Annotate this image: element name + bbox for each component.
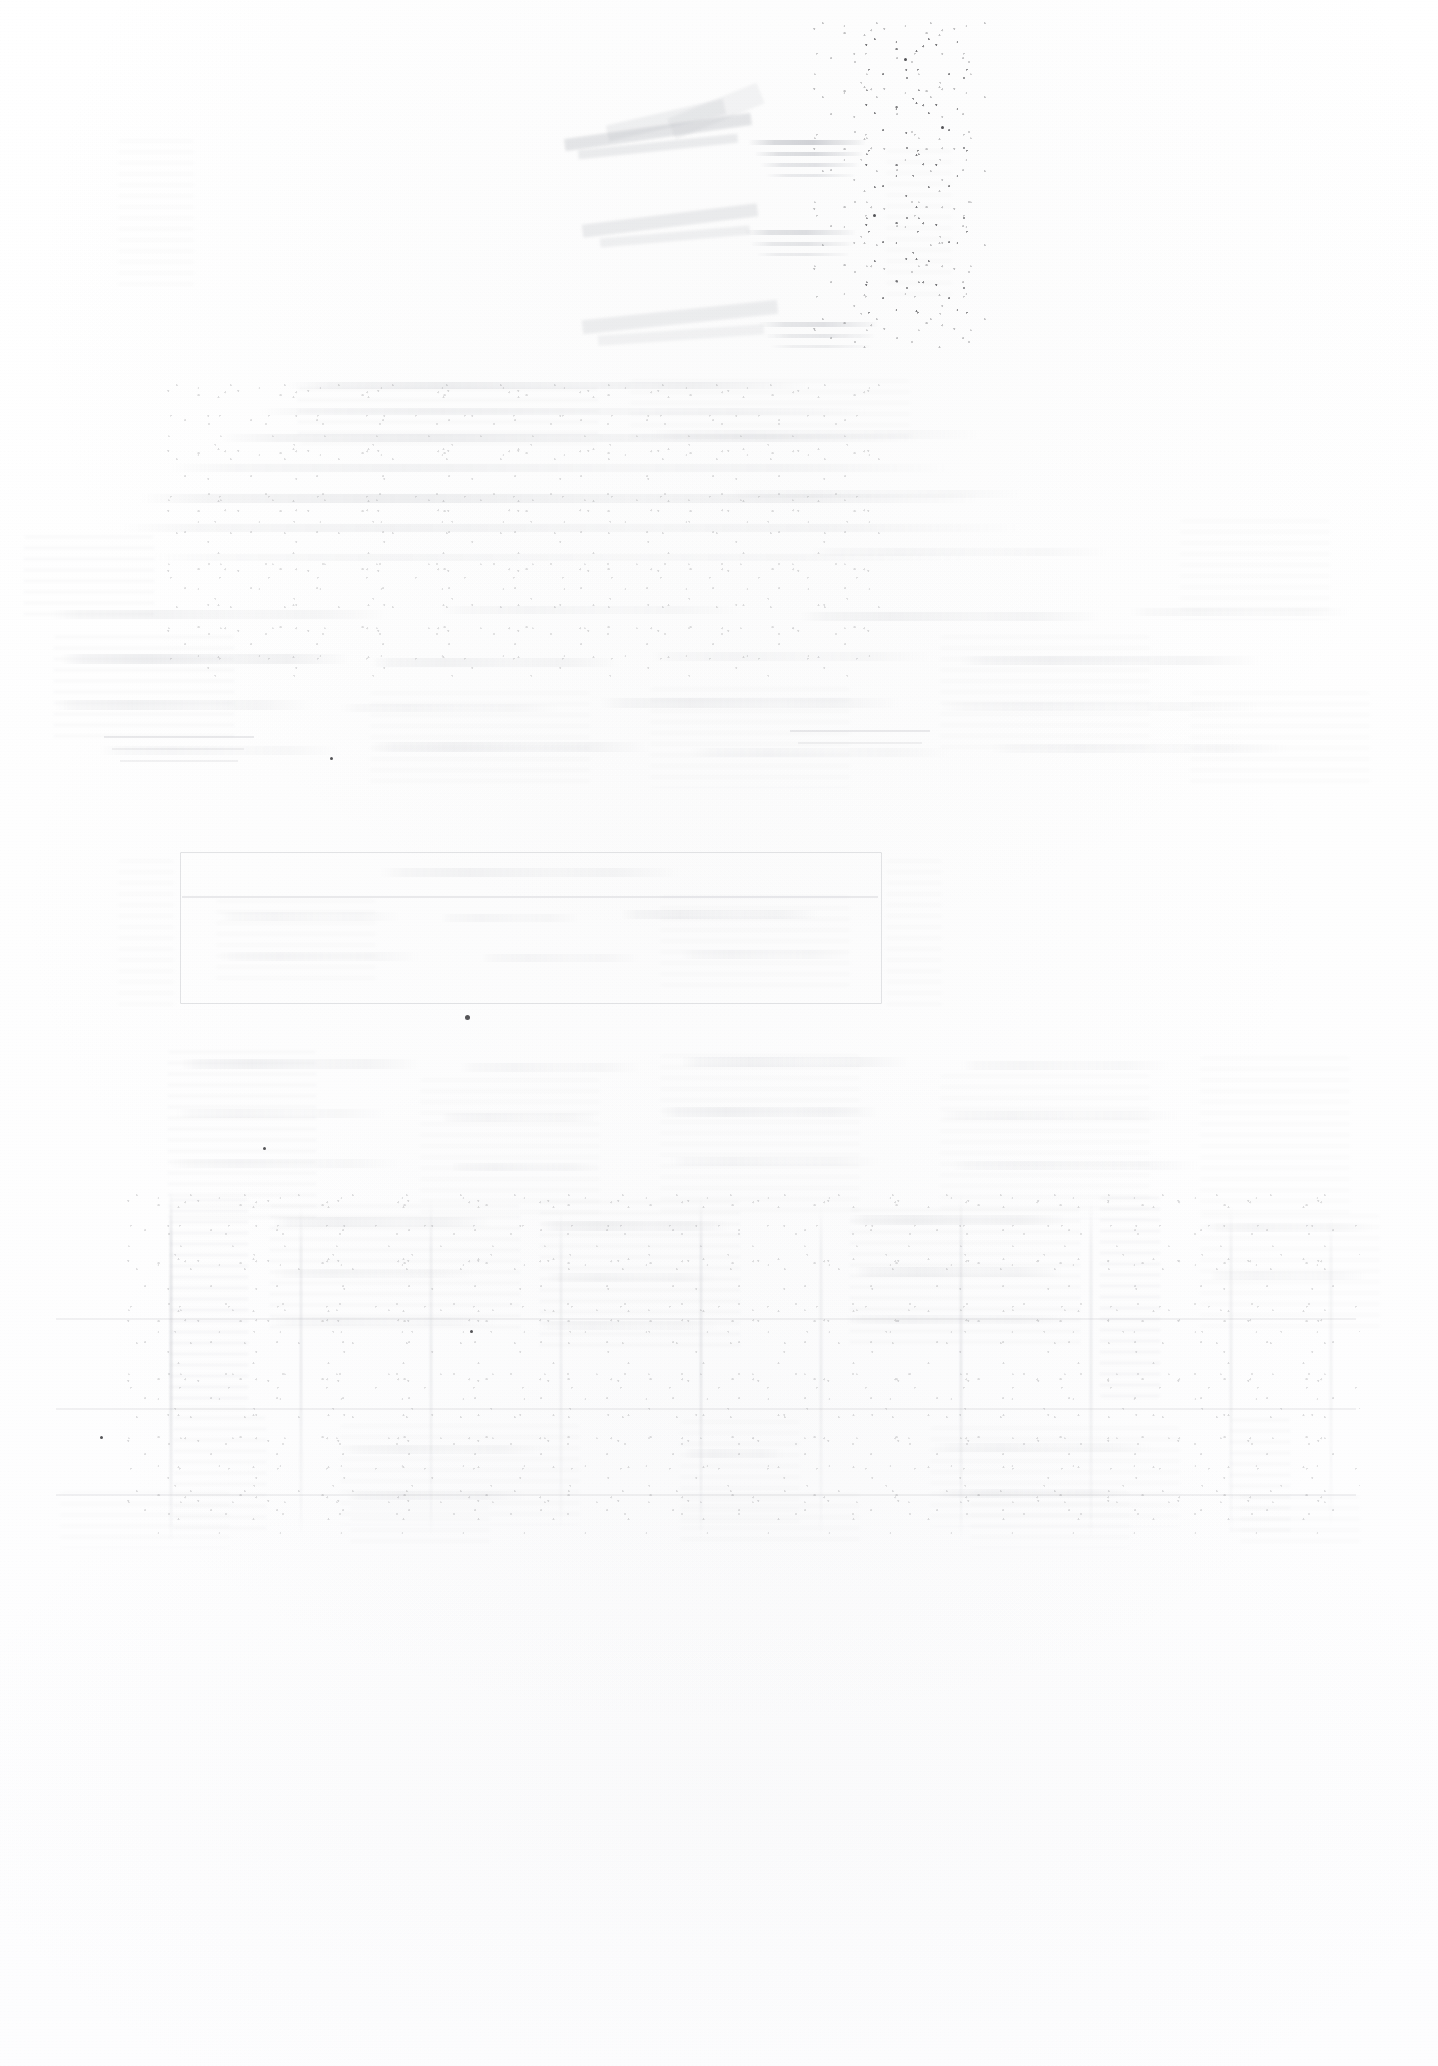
ink-fleck: [941, 126, 944, 129]
speckle-field-mid: [120, 1190, 1360, 1540]
ink-fleck: [330, 757, 333, 760]
masthead-secondary-label: [572, 296, 573, 297]
footer-ghost: [40, 1486, 1400, 1556]
scanner-speckle-field-outer: [806, 18, 996, 348]
rule-ghost-c: [120, 760, 238, 762]
ink-fleck: [465, 1015, 470, 1020]
table-row-rule: [56, 1318, 1356, 1320]
table-upper-label: [120, 1045, 121, 1046]
table-column-separator: [1330, 1214, 1332, 1530]
body-mid-label: [40, 596, 41, 597]
speckle-field-label: ink specks / scanner noise: [858, 34, 859, 35]
ink-fleck: [470, 1330, 473, 1333]
table-column-separator: [170, 1190, 172, 1542]
table-column-separator: [1090, 1200, 1092, 1540]
masthead-secondary-ghost: [572, 296, 892, 426]
margin-note-ghost-right: [1180, 520, 1330, 620]
table-column-separator: [820, 1204, 822, 1538]
table-row-rule: [56, 1494, 1356, 1496]
table-region-upper: [120, 1045, 1370, 1240]
document-page: ink specks / scanner noise: [0, 0, 1438, 2066]
body-text-ghost-upper: [110, 372, 1310, 672]
boxed-insert-label: [181, 853, 182, 854]
right-margin-ghost: [886, 150, 952, 300]
ink-fleck: [904, 58, 907, 61]
table-column-separator: [430, 1198, 432, 1538]
document-condition: severely faded / washed out: [0, 0, 1, 1]
scanner-speckle-field: ink specks / scanner noise: [858, 34, 970, 318]
margin-note-ghost-left: [24, 536, 154, 622]
document-kind: scanned-page: [0, 0, 1, 1]
insert-flank-left: [118, 860, 174, 1010]
table-column-separator: [960, 1192, 962, 1542]
boxed-insert-content-ghost: [180, 852, 880, 1002]
boxed-insert-header-rule: [182, 896, 878, 898]
left-margin-ghost: [118, 140, 194, 290]
masthead-ghost: [548, 96, 898, 306]
table-column-separator: [1230, 1206, 1232, 1536]
illegibility-note: No text in this scan is legible at any m…: [0, 0, 1, 1]
rule-ghost-d: [790, 730, 930, 732]
ink-fleck: [263, 1147, 266, 1150]
ink-fleck: [873, 214, 876, 217]
table-column-separator: [300, 1205, 302, 1535]
rule-ghost-a: [104, 736, 254, 738]
paper-background: [0, 0, 1438, 2066]
masthead-label: [548, 96, 549, 97]
rule-ghost-b: [112, 748, 244, 750]
body-text-ghost-mid: [40, 596, 1380, 836]
rule-ghost-e: [798, 742, 922, 744]
insert-flank-right: [886, 860, 942, 1006]
scan-grain-overlay: [0, 0, 1438, 2066]
table-column-separator: [700, 1196, 702, 1540]
table-lower-label: [40, 1195, 41, 1196]
body-upper-label: [110, 372, 111, 373]
boxed-insert-frame: [180, 852, 882, 1004]
table-region-lower: [40, 1195, 1400, 1545]
ink-fleck: [100, 1436, 103, 1439]
table-row-rule: [56, 1408, 1356, 1410]
table-column-separator: [560, 1210, 562, 1530]
speckle-field-upper: [160, 380, 880, 680]
